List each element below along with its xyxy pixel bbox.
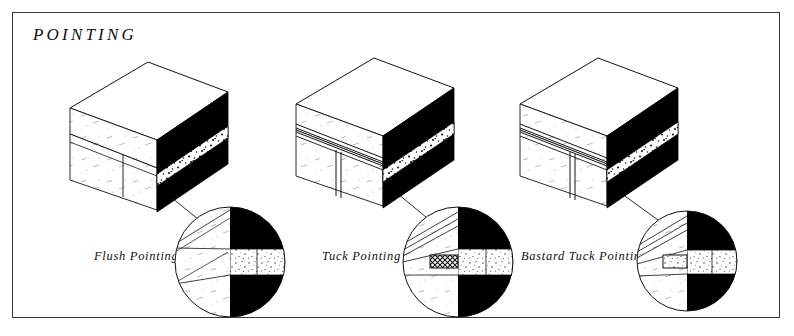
block-flush-pointing xyxy=(70,62,228,224)
detail-circle-bastard-tuck-pointing xyxy=(637,211,737,311)
block-tuck-pointing xyxy=(296,58,454,222)
detail-circle-tuck-pointing xyxy=(403,207,513,317)
block-bastard-tuck-pointing xyxy=(520,58,678,220)
pointing-plate: POINTING Flush Pointing Tuck Pointing Ba… xyxy=(0,0,794,336)
pointing-illustration xyxy=(0,0,794,336)
detail-circle-flush-pointing xyxy=(175,207,285,317)
